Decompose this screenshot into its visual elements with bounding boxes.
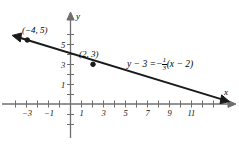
- equation-label: y − 3 =−13(x − 2): [127, 57, 193, 71]
- x-tick-label: −1: [44, 109, 54, 118]
- x-tick-label: 9: [168, 109, 172, 118]
- point-label-2-3: (2, 3): [79, 50, 99, 59]
- data-point-marker: [91, 62, 96, 67]
- equation-lhs: y − 3 =: [127, 59, 156, 69]
- x-axis-label: x: [224, 88, 228, 97]
- x-tick-label: 3: [102, 109, 106, 118]
- x-tick-label: 7: [146, 109, 150, 118]
- y-tick-label: 3: [61, 61, 65, 70]
- y-axis-arrowhead: [67, 12, 74, 20]
- data-point-marker: [25, 38, 30, 43]
- x-tick-label: 1: [80, 109, 84, 118]
- x-tick-label: 11: [188, 109, 196, 118]
- y-axis-label: y: [76, 12, 80, 21]
- point-label-neg4-5: (−4, 5): [22, 26, 48, 35]
- y-tick-label: 1: [61, 81, 65, 90]
- graph-figure: −3 −1 1 3 5 7 9 11 5 3 1 y x (−4, 5) (2,…: [0, 0, 239, 146]
- y-tick-label: 5: [61, 41, 65, 50]
- line-series: [12, 33, 229, 104]
- coordinate-plane-svg: [0, 0, 239, 146]
- line-left-arrowhead: [12, 33, 21, 42]
- x-tick-label: −3: [22, 109, 32, 118]
- equation-rhs: (x − 2): [167, 59, 193, 69]
- x-tick-label: 5: [124, 109, 128, 118]
